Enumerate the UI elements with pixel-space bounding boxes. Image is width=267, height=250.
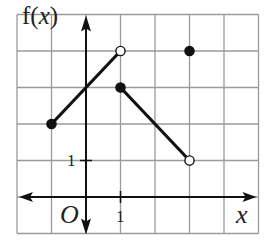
closed-point <box>116 83 125 92</box>
closed-point <box>47 119 56 128</box>
origin-label: O <box>60 200 79 230</box>
y-tick-label: 1 <box>67 151 76 171</box>
x-axis-label: x <box>236 200 248 230</box>
y-axis-label: f(x) <box>22 2 58 30</box>
closed-point <box>185 46 194 55</box>
open-point <box>116 46 125 55</box>
open-point <box>185 156 194 165</box>
x-tick-label: 1 <box>116 207 125 227</box>
graph <box>0 0 267 250</box>
